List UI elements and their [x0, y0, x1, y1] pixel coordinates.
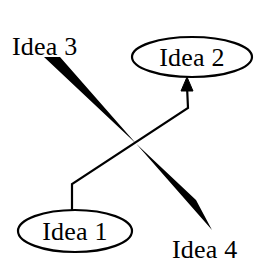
node-idea2-label: Idea 2 [159, 43, 224, 72]
node-idea3-label[interactable]: Idea 3 [12, 32, 77, 61]
node-idea2[interactable]: Idea 2 [132, 37, 252, 77]
arrow-head-icon [181, 77, 193, 91]
node-idea4-label[interactable]: Idea 4 [172, 235, 237, 264]
idea-diagram: Idea 2 Idea 1 Idea 3 Idea 4 [0, 0, 260, 267]
node-idea1-label: Idea 1 [42, 217, 107, 246]
node-idea1[interactable]: Idea 1 [18, 210, 132, 252]
edge-idea1-to-idea2 [72, 86, 188, 211]
diagram-canvas: Idea 2 Idea 1 Idea 3 Idea 4 [0, 0, 260, 267]
